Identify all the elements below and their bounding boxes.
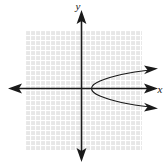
- parabola-arrow-upper: [144, 66, 158, 75]
- y-axis-label: y: [75, 0, 81, 12]
- coordinate-plane-svg: y x: [0, 0, 166, 167]
- x-axis-label: x: [157, 83, 163, 95]
- grid-area: [25, 30, 142, 150]
- parabola-arrow-lower: [144, 103, 158, 112]
- graph-figure: y x: [0, 0, 166, 167]
